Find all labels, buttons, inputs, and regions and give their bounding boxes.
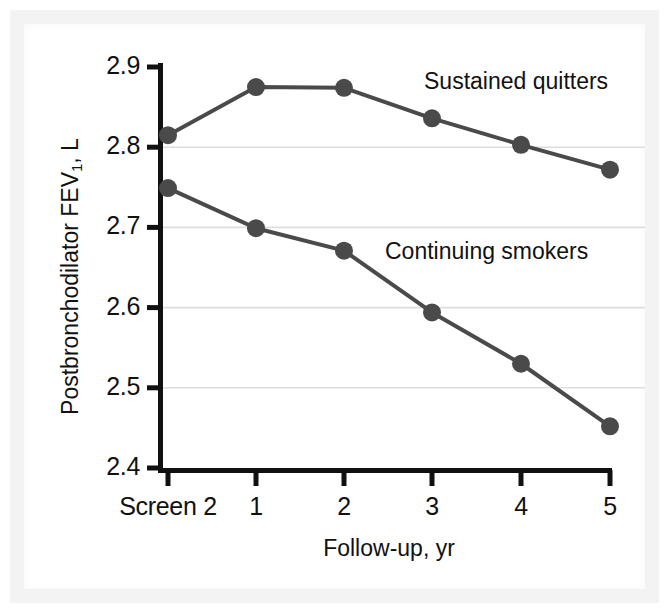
series-line: [168, 87, 610, 170]
data-point-marker: [335, 79, 353, 97]
data-point-marker: [601, 417, 619, 435]
data-point-marker: [512, 355, 530, 373]
y-axis-title: Postbronchodilator FEV1, L: [57, 87, 84, 467]
axes-group: [158, 63, 612, 471]
x-axis-title: Follow-up, yr: [168, 535, 610, 562]
series-annotation-label: Sustained quitters: [424, 68, 608, 95]
data-point-marker: [423, 109, 441, 127]
data-point-marker: [512, 136, 530, 154]
x-axis-tick-label: 5: [520, 492, 669, 521]
gridlines-group: [161, 147, 645, 388]
data-point-marker: [159, 179, 177, 197]
chart-figure: 2.92.82.72.62.52.4 Screen 212345 Postbro…: [0, 0, 669, 613]
data-point-marker: [247, 219, 265, 237]
data-point-marker: [423, 303, 441, 321]
y-axis-title-subscript: 1: [68, 164, 85, 172]
y-axis-title-main: Postbronchodilator FEV: [57, 172, 83, 415]
data-point-marker: [335, 242, 353, 260]
data-point-marker: [159, 126, 177, 144]
series-annotation-label: Continuing smokers: [385, 238, 588, 265]
y-axis-tick-label: 2.9: [68, 51, 140, 80]
data-point-marker: [247, 78, 265, 96]
y-axis-title-tail: , L: [57, 138, 83, 164]
data-point-marker: [601, 161, 619, 179]
